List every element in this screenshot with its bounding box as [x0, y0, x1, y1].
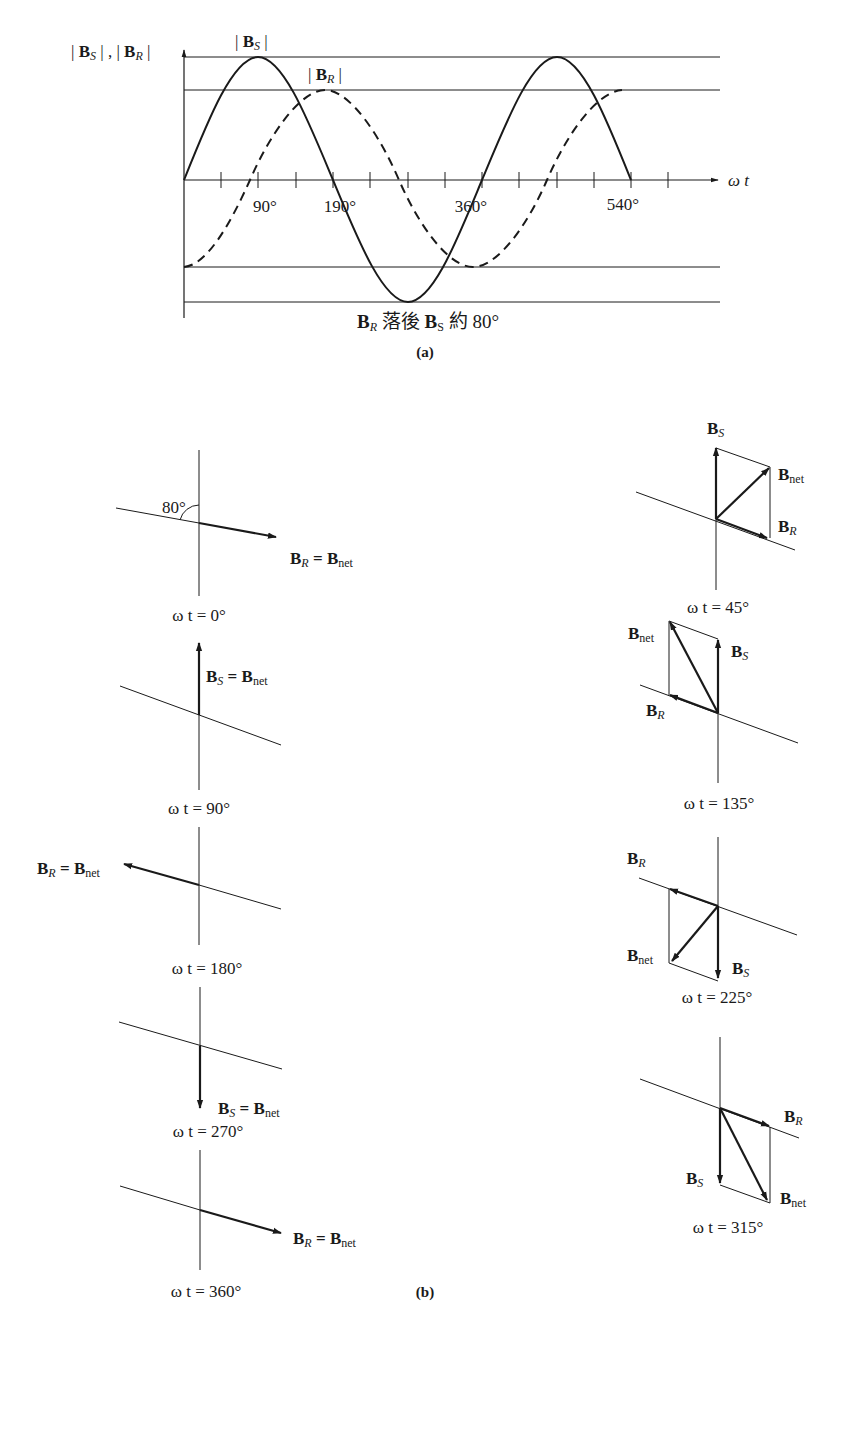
sub: S — [718, 426, 724, 440]
b-symbol: B — [627, 946, 638, 965]
b-symbol: B — [778, 465, 789, 484]
sub: net — [791, 1196, 806, 1210]
b-symbol: B — [242, 667, 253, 686]
b-symbol: B — [254, 1099, 265, 1118]
phasor-225-bnet-label: Bnet — [627, 947, 653, 964]
sub-s: S — [437, 320, 444, 334]
sub: net — [85, 866, 100, 880]
b-symbol: B — [627, 849, 638, 868]
sub: R — [657, 708, 664, 722]
bar: | — [260, 32, 268, 51]
phasor-90-label: BS = Bnet — [206, 668, 268, 685]
x-tick-90: 90° — [253, 198, 277, 215]
phasor-0-caption: ω t = 0° — [172, 607, 226, 624]
omega: ω — [728, 171, 740, 190]
phasor-360-caption: ω t = 360° — [171, 1283, 242, 1300]
x-tick-190: 190° — [324, 198, 356, 215]
b-symbol: B — [731, 642, 742, 661]
phasor-315-bnet-label: Bnet — [780, 1190, 806, 1207]
b-symbol: B — [206, 667, 217, 686]
b-symbol: B — [707, 419, 718, 438]
x-tick-540: 540° — [607, 196, 639, 213]
sub: net — [341, 1236, 356, 1250]
phasor-180-label: BR = Bnet — [37, 860, 100, 877]
b-symbol: B — [646, 701, 657, 720]
sub: net — [338, 556, 353, 570]
sub: R — [48, 866, 55, 880]
phasor-225-br-label: BR — [627, 850, 646, 867]
b-symbol: B — [784, 1107, 795, 1126]
sub: R — [795, 1114, 802, 1128]
b-symbol: B — [37, 859, 48, 878]
bnet-vector — [670, 622, 718, 713]
bar: | — [235, 32, 243, 51]
br-vector — [670, 889, 718, 906]
phasor-45-caption: ω t = 45° — [687, 599, 749, 616]
phasor-315-caption: ω t = 315° — [693, 1219, 764, 1236]
phasor-180-caption: ω t = 180° — [172, 960, 243, 977]
bar: | — [308, 65, 316, 84]
bar: | — [334, 65, 342, 84]
sub-r: R — [370, 320, 377, 334]
y-axis-label: | BS | , | BR | — [71, 43, 150, 60]
b-symbol: B — [330, 1229, 341, 1248]
chart-a — [184, 50, 720, 318]
sub: net — [253, 674, 268, 688]
phasor-45 — [636, 448, 795, 590]
b-symbol: B — [79, 42, 90, 61]
bnet-vector — [716, 468, 769, 519]
sub: S — [697, 1176, 703, 1190]
phasor-360-label: BR = Bnet — [293, 1230, 356, 1247]
caption-text: 落後 — [377, 311, 425, 332]
phasor-360 — [120, 1150, 281, 1270]
sub: S — [742, 649, 748, 663]
br-vector — [199, 523, 276, 537]
b-symbol: B — [357, 311, 370, 332]
phasor-45-br-label: BR — [778, 518, 797, 535]
sub: R — [304, 1236, 311, 1250]
br-curve — [184, 90, 622, 267]
x-tick-360: 360° — [455, 198, 487, 215]
sub-r: R — [135, 49, 142, 63]
sub: net — [789, 472, 804, 486]
b-symbol: B — [74, 859, 85, 878]
equals: = — [235, 1099, 253, 1118]
phasor-45-bnet-label: Bnet — [778, 466, 804, 483]
b-symbol: B — [124, 42, 135, 61]
b-symbol: B — [686, 1169, 697, 1188]
phasor-225-bs-label: BS — [732, 960, 749, 977]
phasor-315-bs-label: BS — [686, 1170, 703, 1187]
t: t — [740, 171, 749, 190]
angle-label: 80° — [162, 499, 186, 516]
br-curve-label: | BR | — [308, 66, 342, 83]
phasor-270 — [119, 987, 282, 1108]
b-symbol: B — [425, 311, 438, 332]
bnet-vector — [672, 906, 718, 961]
panel-label-a: (a) — [416, 345, 434, 360]
phasor-90 — [120, 643, 281, 790]
phasor-135-br-label: BR — [646, 702, 665, 719]
bs-curve-label: | BS | — [235, 33, 268, 50]
b-symbol: B — [628, 624, 639, 643]
b-symbol: B — [293, 1229, 304, 1248]
br-vector — [124, 864, 199, 885]
phasor-45-bs-label: BS — [707, 420, 724, 437]
caption-text: 約 80° — [444, 311, 499, 332]
phasor-135-bs-label: BS — [731, 643, 748, 660]
sub: net — [639, 631, 654, 645]
sub: R — [638, 856, 645, 870]
b-symbol: B — [780, 1189, 791, 1208]
bar: | — [143, 42, 151, 61]
sub: net — [638, 953, 653, 967]
sub: S — [743, 966, 749, 980]
sub: R — [301, 556, 308, 570]
br-vector — [200, 1210, 281, 1233]
phasor-225 — [639, 837, 797, 981]
b-symbol: B — [327, 549, 338, 568]
sub: net — [265, 1106, 280, 1120]
equals: = — [56, 859, 74, 878]
b-symbol: B — [218, 1099, 229, 1118]
phasor-315-br-label: BR — [784, 1108, 803, 1125]
equals: = — [309, 549, 327, 568]
phasor-0 — [116, 450, 276, 596]
